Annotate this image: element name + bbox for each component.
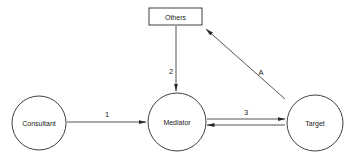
edge-consultant-to-mediator: 1 (67, 110, 146, 122)
node-label-others: Others (165, 14, 187, 21)
arrow-a (206, 29, 285, 99)
edge-label-a: A (258, 68, 263, 77)
node-target: Target (287, 95, 343, 151)
node-label-mediator: Mediator (163, 119, 191, 126)
node-label-consultant: Consultant (22, 120, 56, 127)
edge-label-1: 1 (105, 110, 109, 119)
node-consultant: Consultant (12, 96, 66, 150)
node-mediator: Mediator (148, 93, 206, 151)
edge-mediator-to-target: 3 (207, 108, 285, 119)
node-others: Others (149, 8, 202, 25)
edge-others-to-mediator: 2 (169, 26, 176, 91)
edge-label-3: 3 (244, 108, 248, 117)
edge-label-2: 2 (169, 67, 173, 76)
influence-diagram: 1 2 3 A Others Consultant Mediator Targe… (0, 0, 355, 158)
node-label-target: Target (305, 120, 325, 128)
edge-target-to-others: A (206, 29, 285, 99)
